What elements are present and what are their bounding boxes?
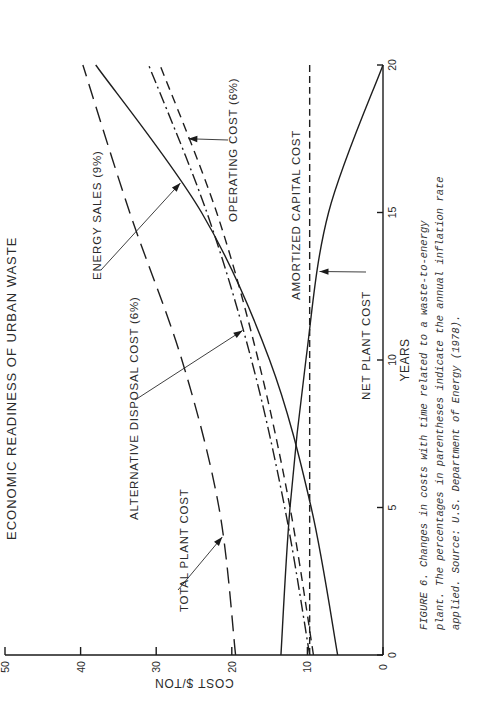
figure-caption: FIGURE 6. Changes in costs with time rel… <box>418 176 462 631</box>
curve-label-total-plant-cost: TOTAL PLANT COST <box>178 488 190 612</box>
curve-label-net-plant-cost: NET PLANT COST <box>360 291 372 400</box>
curve-label-energy-sales-9: ENERGY SALES (9%) <box>91 150 103 280</box>
y-axis-title: COST $/TON <box>154 676 234 690</box>
pointer-alternative-disposal-cost-6 <box>135 331 243 401</box>
y-tick-label: 10 <box>301 661 313 673</box>
x-tick-label: 0 <box>386 652 398 658</box>
plot-area: 0510152001020304050 <box>0 59 398 673</box>
x-tick-label: 15 <box>386 207 398 219</box>
curve-label-alternative-disposal-cost-6: ALTERNATIVE DISPOSAL COST (6%) <box>128 296 140 520</box>
running-head: ECONOMIC READINESS OF URBAN WASTE <box>4 237 19 540</box>
caption-line-2: plant. The percentages in parentheses in… <box>434 176 446 631</box>
curve-label-amortized-capital-cost: AMORTIZED CAPITAL COST <box>290 130 302 300</box>
curve-labels: TOTAL PLANT COSTENERGY SALES (9%)ALTERNA… <box>91 78 372 613</box>
x-tick-label: 10 <box>386 354 398 366</box>
y-tick-label: 40 <box>75 661 87 673</box>
y-tick-label: 20 <box>226 661 238 673</box>
x-axis-title: YEARS <box>398 338 412 381</box>
y-tick-label: 30 <box>150 661 162 673</box>
x-tick-label: 20 <box>386 59 398 71</box>
caption-line-1: FIGURE 6. Changes in costs with time rel… <box>418 220 430 630</box>
y-tick-label: 50 <box>0 661 11 673</box>
arrowhead-icon <box>233 331 242 339</box>
y-tick-label: 0 <box>377 664 389 670</box>
caption-line-3: applied. Source: U.S. Department of Ener… <box>450 315 462 630</box>
figure: ECONOMIC READINESS OF URBAN WASTE 051015… <box>0 0 482 711</box>
x-tick-label: 5 <box>386 504 398 510</box>
arrowhead-icon <box>319 268 328 274</box>
curve-label-operating-cost-6: OPERATING COST (6%) <box>227 78 239 223</box>
arrowhead-icon <box>214 537 222 546</box>
pointer-energy-sales-9 <box>101 183 180 270</box>
series-total-plant-cost <box>83 65 236 655</box>
